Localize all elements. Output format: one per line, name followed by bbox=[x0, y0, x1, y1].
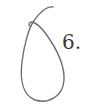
teardrop-loop-drawing bbox=[0, 0, 89, 109]
figure-number-label: 6. bbox=[62, 30, 81, 54]
loop-stroke bbox=[21, 22, 64, 101]
stem-stroke bbox=[33, 7, 53, 22]
